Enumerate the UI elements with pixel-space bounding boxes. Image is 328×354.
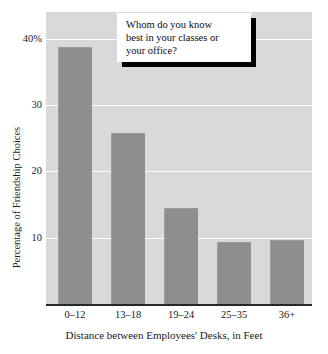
bar xyxy=(217,242,251,304)
bar xyxy=(270,240,304,304)
bar xyxy=(164,208,198,304)
x-axis-line xyxy=(46,304,312,306)
x-tick-label: 0–12 xyxy=(45,309,105,320)
x-tick-label: 13–18 xyxy=(98,309,158,320)
x-axis-title: Distance between Employees' Desks, in Fe… xyxy=(0,329,328,341)
y-axis: 10203040% xyxy=(0,0,46,354)
question-callout-box: Whom do you know best in your classes or… xyxy=(117,13,251,62)
y-tick-label: 40% xyxy=(2,34,42,44)
x-tick-label: 36+ xyxy=(257,309,317,320)
bar xyxy=(111,133,145,304)
y-tick-label: 10 xyxy=(2,233,42,243)
y-tick-label: 30 xyxy=(2,100,42,110)
y-tick-label: 20 xyxy=(2,166,42,176)
y-axis-title: Percentage of Friendship Choices xyxy=(11,98,22,298)
question-callout-text: Whom do you know best in your classes or… xyxy=(126,18,251,58)
x-tick-label: 25–35 xyxy=(204,309,264,320)
x-tick-label: 19–24 xyxy=(151,309,211,320)
bar xyxy=(58,47,92,304)
bar-chart-figure: 10203040% Percentage of Friendship Choic… xyxy=(0,0,328,354)
